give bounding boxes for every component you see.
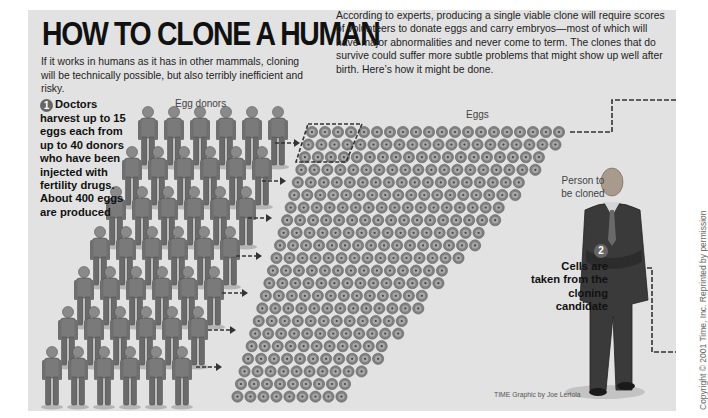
egg-icon (316, 278, 327, 289)
egg-icon (336, 252, 347, 263)
egg-icon (438, 215, 449, 226)
egg-icon (347, 215, 358, 226)
egg-icon (517, 164, 528, 175)
egg-icon (391, 240, 402, 251)
egg-icon (319, 265, 330, 276)
egg-icon (282, 215, 293, 226)
egg-icon (355, 139, 366, 150)
egg-icon (440, 252, 451, 263)
egg-icon (384, 265, 395, 276)
egg-icon (390, 290, 401, 301)
egg-icon (435, 177, 446, 188)
egg-icon (326, 378, 337, 389)
egg-icon (493, 202, 504, 213)
egg-icon (318, 177, 329, 188)
egg-icon (370, 177, 381, 188)
egg-icon (321, 353, 332, 364)
egg-icon (331, 315, 342, 326)
egg-icon (484, 189, 495, 200)
egg-icon (442, 152, 453, 163)
eggs-label: Eggs (466, 109, 489, 120)
egg-icon (272, 341, 283, 352)
egg-icon (334, 353, 345, 364)
egg-icon (342, 278, 353, 289)
arrow-head-icon (256, 252, 262, 260)
egg-icon (425, 215, 436, 226)
egg-icon (323, 252, 334, 263)
egg-icon (304, 366, 315, 377)
egg-icon (317, 227, 328, 238)
egg-icon (433, 278, 444, 289)
egg-icon (303, 139, 314, 150)
egg-icon (396, 177, 407, 188)
graphic-credit: TIME Graphic by Joe Lertola (494, 390, 581, 399)
egg-icon (267, 265, 278, 276)
egg-icon (309, 303, 320, 314)
egg-icon (295, 353, 306, 364)
arrow-head-icon (230, 326, 236, 334)
egg-icon (341, 189, 352, 200)
egg-icon (305, 315, 316, 326)
egg-icon (412, 215, 423, 226)
egg-icon (387, 164, 398, 175)
egg-icon (393, 189, 404, 200)
egg-icon (274, 240, 285, 251)
egg-icon (423, 265, 434, 276)
egg-icon (390, 152, 401, 163)
egg-icon (357, 177, 368, 188)
egg-icon (459, 139, 470, 150)
step-number-badge: 2 (594, 244, 608, 258)
egg-icon (419, 189, 430, 200)
egg-icon (445, 189, 456, 200)
egg-icon (336, 391, 347, 402)
egg-icon (384, 126, 395, 137)
egg-icon (394, 278, 405, 289)
person-to-be-cloned-label: Person to be cloned (555, 174, 611, 200)
step-2-callout: 2Cells are taken from the cloning candid… (530, 244, 608, 314)
egg-icon (295, 215, 306, 226)
egg-icon (291, 227, 302, 238)
connector-line-top (570, 100, 676, 132)
egg-icon (462, 126, 473, 137)
egg-icon (319, 126, 330, 137)
egg-icon (456, 240, 467, 251)
egg-icon (323, 391, 334, 402)
egg-icon (376, 341, 387, 352)
egg-icon (513, 177, 524, 188)
egg-icon (441, 202, 452, 213)
egg-icon (324, 202, 335, 213)
egg-icon (299, 152, 310, 163)
egg-icon (388, 252, 399, 263)
egg-icon (284, 252, 295, 263)
egg-icon (446, 139, 457, 150)
egg-icon (330, 227, 341, 238)
egg-icon (524, 139, 535, 150)
egg-icon (368, 278, 379, 289)
egg-icon (530, 164, 541, 175)
egg-icon (474, 177, 485, 188)
egg-icon (414, 252, 425, 263)
egg-icon (261, 378, 272, 389)
egg-icon (263, 328, 274, 339)
egg-icon (311, 341, 322, 352)
egg-icon (284, 391, 295, 402)
egg-icon (300, 240, 311, 251)
egg-icon (500, 177, 511, 188)
egg-icon (303, 278, 314, 289)
egg-icon (344, 177, 355, 188)
egg-icon (401, 252, 412, 263)
egg-icon (298, 341, 309, 352)
egg-icon (361, 303, 372, 314)
egg-icon (439, 164, 450, 175)
egg-icon (434, 227, 445, 238)
egg-icon (540, 126, 551, 137)
egg-icon (362, 252, 373, 263)
egg-icon (468, 152, 479, 163)
egg-icon (415, 202, 426, 213)
egg-icon (369, 227, 380, 238)
egg-icon (304, 227, 315, 238)
egg-icon (420, 278, 431, 289)
step-1-callout: 1Doctors harvest up to 15 eggs each from… (40, 98, 128, 219)
egg-icon (253, 315, 264, 326)
egg-icon (498, 139, 509, 150)
